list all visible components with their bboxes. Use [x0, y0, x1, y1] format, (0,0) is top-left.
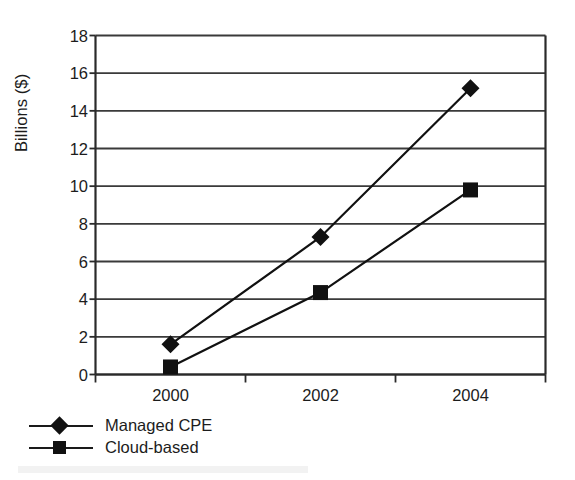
legend-label-cloud-based: Cloud-based — [93, 438, 199, 457]
data-point-marker — [463, 182, 478, 197]
chart-legend: Managed CPE Cloud-based — [29, 414, 359, 458]
legend-label-managed-cpe: Managed CPE — [93, 416, 212, 435]
chart-figure: Billions ($) 024681012141618 20002002200… — [0, 0, 575, 480]
scan-artifact — [18, 466, 308, 473]
legend-item-cloud-based[interactable]: Cloud-based — [29, 436, 359, 458]
plot-area — [0, 0, 575, 480]
series-line-0 — [171, 88, 471, 344]
data-point-marker — [162, 335, 180, 353]
series-line-1 — [171, 190, 471, 367]
data-point-marker — [313, 285, 328, 300]
diamond-marker-icon — [29, 415, 93, 435]
square-marker-icon — [29, 437, 93, 457]
data-point-marker — [163, 359, 178, 374]
legend-item-managed-cpe[interactable]: Managed CPE — [29, 414, 359, 436]
